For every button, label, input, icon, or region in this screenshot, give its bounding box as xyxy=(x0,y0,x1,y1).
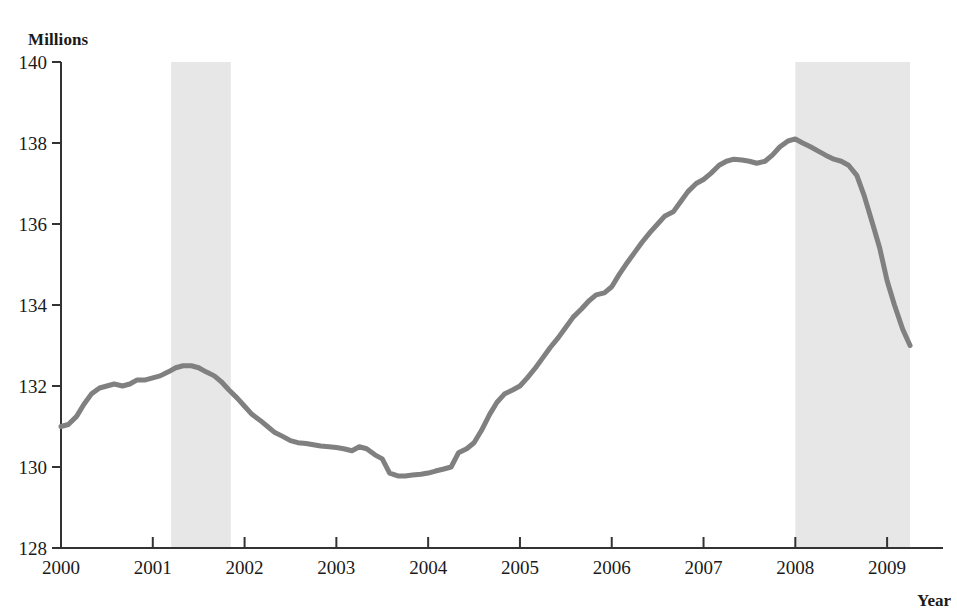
y-axis-tick-label: 134 xyxy=(0,296,47,315)
x-axis-tick-label: 2009 xyxy=(852,558,922,577)
y-axis-tick-label: 130 xyxy=(0,458,47,477)
x-axis-title: Year xyxy=(917,591,951,611)
x-axis-tick-label: 2001 xyxy=(118,558,188,577)
recession-band-2001 xyxy=(171,62,231,548)
x-axis-tick-label: 2003 xyxy=(301,558,371,577)
y-axis-unit-label: Millions xyxy=(28,30,88,50)
x-axis-tick-label: 2005 xyxy=(485,558,555,577)
recession-bands-group xyxy=(171,62,910,548)
x-axis-tick-label: 2002 xyxy=(210,558,280,577)
y-axis-tick-label: 138 xyxy=(0,134,47,153)
x-axis-tick-label: 2008 xyxy=(760,558,830,577)
x-axis-tick-label: 2000 xyxy=(26,558,96,577)
chart-container: Millions Year 128130132134136138140 2000… xyxy=(0,0,957,615)
x-axis-tick-label: 2006 xyxy=(577,558,647,577)
y-axis-tick-label: 132 xyxy=(0,377,47,396)
x-axis-tick-label: 2007 xyxy=(669,558,739,577)
y-axis-tick-label: 140 xyxy=(0,53,47,72)
y-axis-tick-label: 128 xyxy=(0,539,47,558)
y-axis-tick-label: 136 xyxy=(0,215,47,234)
x-axis-tick-label: 2004 xyxy=(393,558,463,577)
line-chart-plot xyxy=(0,0,957,615)
